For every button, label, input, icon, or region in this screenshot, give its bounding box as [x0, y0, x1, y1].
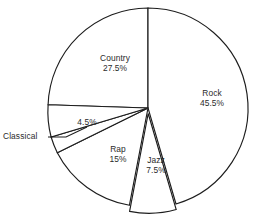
slice-label-classical: Classical — [3, 132, 49, 142]
rock-percent: 45.5% — [181, 99, 243, 109]
thin-percent: 4.5% — [77, 117, 97, 127]
slice-label-country: Country 27.5% — [84, 54, 146, 73]
slice-label-rock: Rock 45.5% — [181, 89, 243, 108]
country-name: Country — [100, 53, 130, 63]
classical-name: Classical — [3, 131, 37, 141]
slice-label-thin-4-5: 4.5% — [68, 118, 106, 128]
jazz-percent: 7.5% — [134, 166, 178, 176]
country-percent: 27.5% — [84, 64, 146, 74]
rock-name: Rock — [202, 88, 221, 98]
slice-label-jazz: Jazz 7.5% — [134, 156, 178, 175]
jazz-name: Jazz — [147, 155, 165, 165]
pie-chart: Country 27.5% Rock 45.5% Rap 15% Jazz 7.… — [0, 0, 253, 216]
rap-name: Rap — [110, 144, 126, 154]
